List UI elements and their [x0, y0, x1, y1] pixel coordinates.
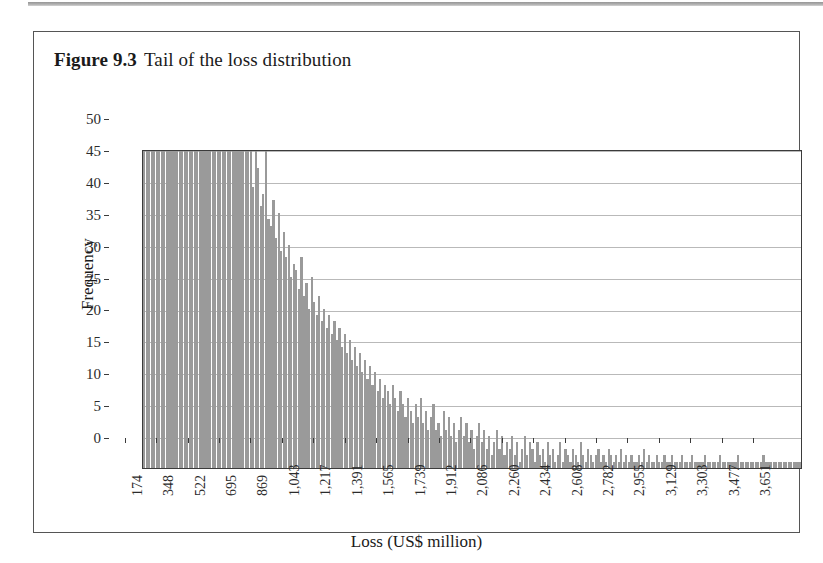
x-tick-label: 3,303: [695, 465, 711, 497]
y-tick-label: 40: [67, 174, 101, 191]
x-tick-label: 1,217: [318, 465, 334, 497]
x-tick-label: 2,434: [538, 465, 554, 497]
y-tick-mark: [104, 374, 109, 375]
x-tick-label: 2,782: [601, 465, 617, 497]
y-tick-label: 35: [67, 206, 101, 223]
x-tick-mark: [408, 438, 409, 443]
x-tick-mark: [156, 438, 157, 443]
y-tick-mark: [104, 438, 109, 439]
x-tick-label: 695: [224, 475, 240, 496]
x-tick-label: 2,608: [570, 465, 586, 497]
x-tick-mark: [533, 438, 534, 443]
y-tick-mark: [104, 310, 109, 311]
x-tick-label: 174: [130, 475, 146, 496]
x-tick-label: 3,651: [758, 465, 774, 497]
x-tick-label: 1,391: [350, 465, 366, 497]
y-tick-mark: [104, 279, 109, 280]
histogram-bar: [800, 462, 802, 468]
x-tick-label: 522: [193, 475, 209, 496]
y-tick-mark: [104, 342, 109, 343]
x-tick-mark: [627, 438, 628, 443]
x-tick-mark: [470, 438, 471, 443]
x-tick-label: 1,912: [444, 465, 460, 497]
scan-artifact-bar: [28, 2, 823, 6]
y-tick-label: 50: [67, 111, 101, 128]
y-tick-mark: [104, 406, 109, 407]
x-tick-mark: [345, 438, 346, 443]
y-tick-label: 0: [67, 430, 101, 447]
x-tick-mark: [250, 438, 251, 443]
y-tick-label: 15: [67, 334, 101, 351]
x-tick-label: 3,129: [664, 465, 680, 497]
x-tick-mark: [659, 438, 660, 443]
x-tick-mark: [188, 438, 189, 443]
y-tick-label: 20: [67, 302, 101, 319]
x-tick-label: 2,955: [632, 465, 648, 497]
x-tick-mark: [722, 438, 723, 443]
x-tick-mark: [219, 438, 220, 443]
plot-box: [142, 150, 802, 469]
x-tick-label: 869: [255, 475, 271, 496]
x-tick-mark: [376, 438, 377, 443]
y-tick-mark: [104, 119, 109, 120]
x-tick-label: 1,739: [413, 465, 429, 497]
x-tick-label: 2,260: [507, 465, 523, 497]
x-tick-mark: [596, 438, 597, 443]
x-tick-mark: [753, 438, 754, 443]
x-tick-label: 348: [161, 475, 177, 496]
chart-plot-area: [142, 150, 802, 469]
x-tick-mark: [125, 438, 126, 443]
x-tick-mark: [313, 438, 314, 443]
x-tick-mark: [502, 438, 503, 443]
figure-title: Tail of the loss distribution: [144, 49, 351, 70]
histogram-bars: [143, 151, 801, 468]
figure-frame: Figure 9.3Tail of the loss distribution …: [33, 31, 800, 533]
x-tick-mark: [690, 438, 691, 443]
x-tick-label: 1,043: [287, 465, 303, 497]
x-tick-mark: [282, 438, 283, 443]
x-tick-mark: [439, 438, 440, 443]
x-tick-mark: [565, 438, 566, 443]
figure-label: Figure 9.3: [54, 49, 137, 70]
y-tick-label: 45: [67, 142, 101, 159]
x-tick-label: 3,477: [727, 465, 743, 497]
y-tick-mark: [104, 183, 109, 184]
y-tick-mark: [104, 247, 109, 248]
y-tick-mark: [104, 215, 109, 216]
x-axis-title: Loss (US$ million): [34, 532, 799, 552]
x-tick-label: 1,565: [381, 465, 397, 497]
y-tick-label: 5: [67, 398, 101, 415]
y-tick-label: 25: [67, 270, 101, 287]
figure-caption: Figure 9.3Tail of the loss distribution: [54, 49, 351, 71]
y-tick-label: 10: [67, 366, 101, 383]
x-tick-label: 2,086: [475, 465, 491, 497]
y-tick-mark: [104, 151, 109, 152]
y-tick-label: 30: [67, 238, 101, 255]
